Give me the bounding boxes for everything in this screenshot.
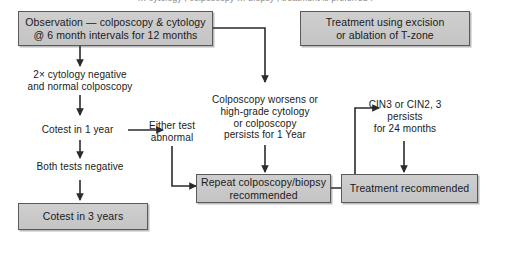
node-repeat-colposcopy[interactable]: Repeat colposcopy/biopsy recommended	[196, 174, 331, 203]
node-both-tests-negative: Both tests negative	[18, 159, 142, 175]
clipped-header-text: … cytology , colposcopy … biopsy , treat…	[0, 0, 510, 7]
node-cotest-3-years[interactable]: Cotest in 3 years	[18, 203, 148, 230]
edge-either-to-repeat	[172, 146, 196, 186]
node-treatment-recommended[interactable]: Treatment recommended	[341, 174, 478, 203]
node-colposcopy-worsens: Colposcopy worsens or high-grade cytolog…	[203, 90, 327, 145]
node-observation[interactable]: Observation — colposcopy & cytology @ 6 …	[18, 11, 213, 46]
node-treatment-excision[interactable]: Treatment using excision or ablation of …	[300, 11, 470, 46]
edge-observation-to-worsens	[213, 28, 265, 82]
node-either-test-abnormal: Either test abnormal	[142, 118, 202, 146]
node-two-cytology-negative: 2× cytology negative and normal colposco…	[12, 67, 148, 95]
flowchart-canvas: … cytology , colposcopy … biopsy , treat…	[0, 0, 510, 253]
node-cotest-1-year: Cotest in 1 year	[27, 122, 128, 138]
node-cin3-or-cin2: CIN3 or CIN2, 3 persists for 24 months	[356, 96, 454, 138]
